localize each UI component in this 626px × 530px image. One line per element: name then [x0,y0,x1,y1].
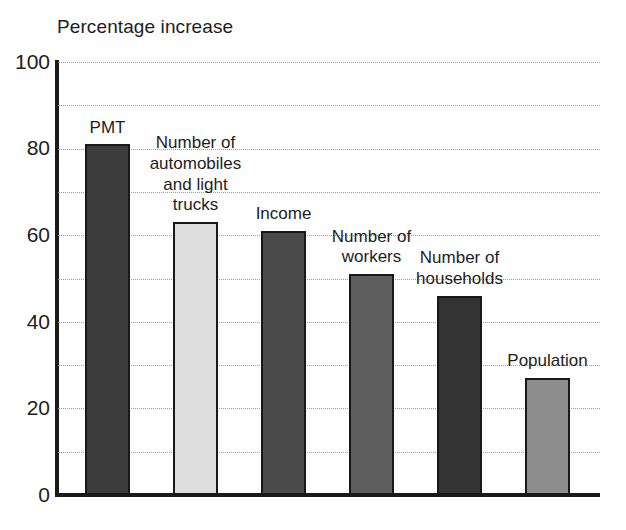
y-tick-40: 40 [27,310,50,334]
y-tick-20: 20 [27,396,50,420]
y-tick-100: 100 [15,50,50,74]
gridline-90 [58,105,600,106]
gridline-100 [58,62,600,63]
bar [437,296,482,495]
chart-title: Percentage increase [57,16,233,38]
gridline-10 [58,452,600,453]
bar [349,274,394,495]
bar-label: Population [473,351,623,372]
bar [261,231,306,495]
bar-label: Income [209,204,359,225]
bar [173,222,218,495]
bar-label: Number of households [385,248,535,289]
y-tick-80: 80 [27,136,50,160]
bar-chart-figure: Percentage increase 100 80 60 40 20 0 PM… [0,0,626,530]
bar [525,378,570,495]
gridline-20 [58,408,600,409]
y-axis-tick-labels: 100 80 60 40 20 0 [0,0,50,530]
y-tick-0: 0 [38,483,50,507]
y-tick-60: 60 [27,223,50,247]
gridline-40 [58,322,600,323]
